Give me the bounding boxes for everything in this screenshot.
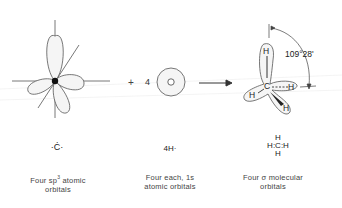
caption-carbon-line2: orbitals: [8, 185, 108, 194]
caption-carbon: Four sp3 atomic orbitals: [8, 173, 108, 194]
caption-hydrogen-line1: Four each, 1s: [125, 173, 215, 182]
methane-atom-h-right: H: [288, 82, 294, 92]
sp3-orbital-icon: [12, 20, 110, 118]
methane-atom-c: C: [264, 81, 270, 91]
plus-sign: +: [128, 77, 134, 88]
carbon-lewis: ·Ċ·: [42, 142, 72, 152]
caption-carbon-post: atomic: [60, 176, 86, 185]
caption-hydrogen: Four each, 1s atomic orbitals: [125, 173, 215, 191]
methane-lewis: H H:C:H H: [258, 134, 298, 158]
methane-atom-h-bottom: H: [283, 103, 289, 113]
caption-carbon-pre: Four sp: [30, 176, 57, 185]
coefficient-4: 4: [145, 77, 150, 87]
caption-hydrogen-line2: atomic orbitals: [125, 182, 215, 191]
hydrogen-lewis: 4H·: [150, 144, 190, 153]
methane-lewis-bottom: H: [258, 150, 298, 158]
s-orbital-icon: [157, 68, 185, 96]
bond-angle-label: 109°28': [285, 49, 314, 59]
methane-atom-h-top: H: [263, 46, 269, 56]
caption-methane: Four σ molecular orbitals: [228, 173, 318, 191]
caption-methane-line2: orbitals: [228, 182, 318, 191]
methane-atom-h-left: H: [249, 90, 255, 100]
caption-methane-line1: Four σ molecular: [228, 173, 318, 182]
